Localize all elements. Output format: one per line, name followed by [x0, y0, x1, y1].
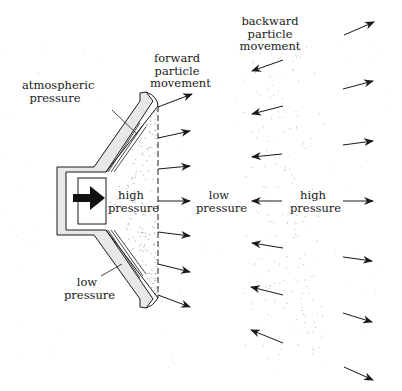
label-low-pressure-middle: low pressure [196, 189, 242, 214]
forward-arrows [158, 94, 192, 307]
label-low-pressure-speaker: low pressure [64, 276, 110, 301]
label-atmospheric-pressure: atmospheric pressure [22, 79, 88, 104]
far-right-arrows [343, 22, 374, 380]
sound-wave-diagram: atmospheric pressure forward particle mo… [0, 0, 402, 391]
backward-arrows [251, 60, 283, 343]
label-backward-particle-movement: backward particle movement [238, 15, 302, 53]
label-forward-particle-movement: forward particle movement [150, 52, 204, 90]
label-high-pressure-right: high pressure [290, 189, 336, 214]
label-high-pressure-cone: high pressure [108, 189, 154, 214]
